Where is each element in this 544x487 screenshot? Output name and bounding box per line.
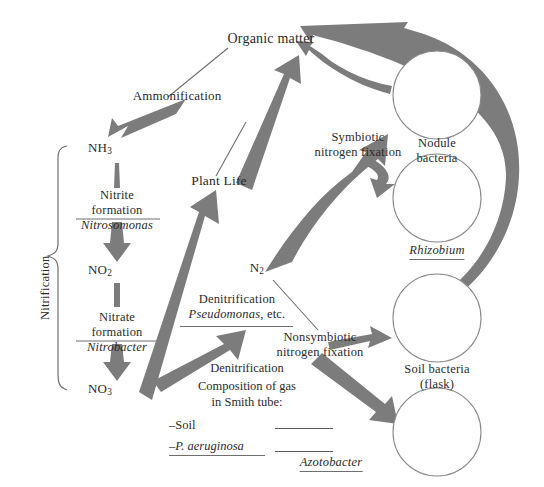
- legend-title: Denitrification: [155, 360, 333, 377]
- process-label-denitrification: Denitrification: [189, 292, 286, 307]
- arrow-ammonification: [108, 99, 186, 138]
- process-label-symbiotic-fixation: Symbiotic nitrogen fixation: [314, 130, 401, 160]
- culture-label-azotobacter: Azotobacter: [300, 455, 363, 472]
- culture-label-soil-bacteria: Soil bacteria (flask): [404, 362, 469, 392]
- organism-label-pseudomonas-suffix: , etc.: [260, 307, 285, 321]
- node-label-nitrite: NO2: [88, 262, 112, 279]
- node-label-plant-life: Plant Life: [191, 173, 247, 189]
- circle-rhizobium: [393, 154, 481, 242]
- legend-item-p-aeruginosa-label: –P. aeruginosa: [169, 438, 265, 456]
- node-label-nitrate-text: NO: [88, 381, 107, 396]
- circle-nodule-bacteria: [393, 51, 481, 139]
- process-label-symbiotic-line2: nitrogen fixation: [314, 145, 401, 160]
- node-label-nitrite-subscript: 2: [107, 268, 112, 278]
- rule-pseudomonas: [180, 326, 293, 327]
- circle-soil-bacteria: [393, 274, 481, 362]
- node-label-dinitrogen-subscript: 2: [259, 266, 264, 276]
- culture-label-nodule-bacteria: Nodule bacteria: [416, 136, 457, 166]
- node-label-dinitrogen: N2: [250, 260, 264, 277]
- process-label-nitrite-formation-line1: Nitrite: [81, 188, 153, 203]
- process-label-nonsymbiotic-fixation: Nonsymbiotic nitrogen fixation: [276, 330, 363, 360]
- node-label-nitrate: NO3: [88, 381, 112, 398]
- legend-item-p-aeruginosa-rule: [275, 451, 333, 452]
- process-label-nitrite-formation: Nitrite formation Nitrosomonas: [81, 188, 153, 232]
- node-label-nitrate-subscript: 3: [107, 387, 112, 397]
- node-label-ammonia-text: NH: [88, 140, 107, 155]
- node-label-ammonia: NH3: [88, 140, 112, 157]
- culture-label-azotobacter-wrap: Azotobacter: [300, 455, 363, 472]
- process-label-nitrate-formation-line1: Nitrate: [87, 310, 147, 325]
- legend-caption-line1: Composition of gas: [155, 378, 333, 395]
- process-label-denitrification-pseudomonas: Denitrification Pseudomonas, etc.: [189, 292, 286, 322]
- process-label-symbiotic-line1: Symbiotic: [314, 130, 401, 145]
- leader-line-plant-life-to-organic: [216, 122, 246, 176]
- legend-item-p-aeruginosa: –P. aeruginosa: [155, 438, 333, 456]
- culture-label-rhizobium-wrap: Rhizobium: [409, 243, 464, 260]
- legend-item-soil-rule: [275, 428, 333, 429]
- arrow-ammonia-to-nitrite-step: [114, 163, 120, 188]
- legend-caption-line2: in Smith tube:: [155, 394, 333, 411]
- culture-label-soil-line2: (flask): [404, 377, 469, 392]
- culture-label-soil-line1: Soil bacteria: [404, 362, 469, 377]
- process-label-ammonification: Ammonification: [133, 88, 222, 103]
- culture-label-nodule-line2: bacteria: [416, 151, 457, 166]
- process-label-nonsymbiotic-line1: Nonsymbiotic: [276, 330, 363, 345]
- organism-label-nitrobacter: Nitrobacter: [87, 340, 147, 355]
- node-label-dinitrogen-text: N: [250, 260, 260, 275]
- culture-label-nodule-line1: Nodule: [416, 136, 457, 151]
- legend-item-soil: –Soil: [155, 417, 333, 434]
- organism-label-nitrosomonas: Nitrosomonas: [81, 218, 153, 233]
- process-label-nonsymbiotic-line2: nitrogen fixation: [276, 345, 363, 360]
- arrow-nitrite-node-to-nitrate-step: [114, 283, 120, 307]
- node-label-nitrite-text: NO: [88, 262, 107, 277]
- process-label-nitrite-formation-line2: formation: [81, 203, 153, 218]
- legend-smith-tube: Denitrification Composition of gas in Sm…: [155, 360, 333, 456]
- process-label-nitrification: Nitrification: [38, 256, 53, 320]
- culture-label-rhizobium: Rhizobium: [409, 243, 464, 260]
- arrow-symbiotic-fixation-to-rhizobium: [366, 160, 395, 198]
- process-label-nitrate-formation: Nitrate formation Nitrobacter: [87, 310, 147, 354]
- circle-azotobacter: [393, 388, 481, 476]
- organism-label-pseudomonas-wrap: Pseudomonas, etc.: [189, 307, 286, 322]
- node-label-organic-matter: Organic matter: [228, 31, 315, 48]
- process-label-nitrate-formation-line2: formation: [87, 325, 147, 340]
- node-label-ammonia-subscript: 3: [107, 146, 112, 156]
- organism-label-pseudomonas: Pseudomonas: [189, 307, 261, 321]
- legend-item-soil-label: –Soil: [169, 417, 265, 434]
- nitrogen-cycle-diagram: Organic matter Ammonification NH3 Nitrit…: [0, 0, 544, 487]
